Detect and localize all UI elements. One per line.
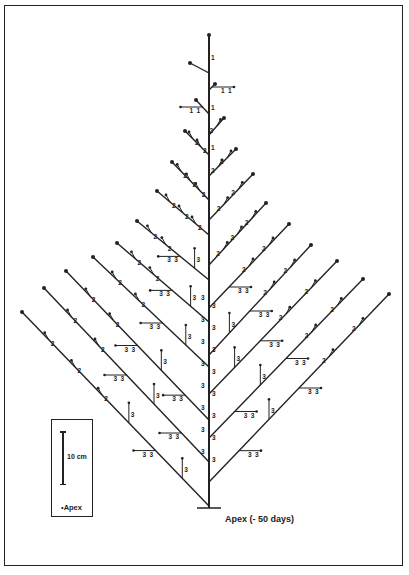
apex-dot-icon (230, 150, 233, 153)
apex-dot-icon (111, 271, 114, 274)
apex-dot-icon (64, 269, 68, 273)
right-main-branch (209, 245, 311, 355)
branch-order-label: 3 (231, 321, 235, 328)
branch-order-label: 2 (245, 219, 249, 226)
legend-apex-label: •Apex (61, 503, 82, 512)
branch-order-label: 1 (228, 87, 232, 94)
branch-order-label: 3 (245, 287, 249, 294)
branch-order-label: 3 (167, 256, 171, 263)
branch-order-label: 2 (203, 147, 207, 154)
apex-dot-icon (128, 402, 131, 405)
branch-order-label: 1 (211, 104, 215, 111)
legend-scale-label: 10 cm (67, 453, 87, 460)
branch-order-label: 3 (201, 382, 205, 389)
branch-order-label: 2 (242, 266, 246, 273)
apex-dot-icon (250, 286, 253, 289)
branch-order-label: 3 (266, 311, 270, 318)
branch-order-label: 3 (201, 316, 205, 323)
left-main-branch (117, 243, 209, 322)
branch-order-label: 2 (231, 189, 235, 196)
branch-order-label: 2 (211, 167, 215, 174)
branch-order-label: 3 (212, 434, 216, 441)
apex-dot-icon (273, 281, 276, 284)
apex-dot-icon (281, 340, 284, 343)
branch-order-label: 3 (179, 395, 183, 402)
branch-order-label: 2 (305, 332, 309, 339)
apex-dot-icon (288, 306, 291, 309)
apex-dot-icon (149, 289, 152, 292)
branch-order-label: 3 (193, 294, 197, 301)
branch-order-label: 3 (143, 451, 147, 458)
apex-dot-icon (191, 216, 194, 219)
branch-order-label: 1 (211, 54, 215, 61)
branch-order-label: 3 (176, 433, 180, 440)
apex-dot-icon (155, 189, 159, 193)
branch-order-label: 1 (211, 144, 215, 151)
apex-dot-icon (241, 181, 244, 184)
apex-dot-icon (139, 322, 142, 325)
right-main-branch (209, 174, 253, 220)
apex-dot-icon (307, 357, 310, 360)
branch-order-label: 3 (212, 390, 216, 397)
apex-dot-icon (160, 236, 163, 239)
branch-order-label: 2 (322, 357, 326, 364)
apex-dot-icon (196, 139, 199, 142)
apex-dot-icon (309, 243, 313, 247)
branch-order-label: 2 (92, 296, 96, 303)
branch-order-label: 2 (51, 340, 55, 347)
apex-dot-icon (185, 173, 188, 176)
apex-dot-icon (153, 383, 156, 386)
branch-order-label: 3 (201, 360, 205, 367)
apex-dot-icon (222, 116, 226, 120)
apex-dot-icon (272, 237, 275, 240)
left-main-branch (190, 63, 209, 73)
branch-order-label: 3 (238, 287, 242, 294)
apex-dot-icon (188, 61, 192, 65)
apex-dot-icon (320, 387, 323, 390)
branch-order-label: 2 (198, 224, 202, 231)
branch-order-label: 3 (125, 346, 129, 353)
branch-order-label: 3 (302, 359, 306, 366)
branch-order-label: 1 (190, 107, 194, 114)
apex-dot-icon (226, 241, 229, 244)
apex-dot-icon (259, 364, 262, 367)
apex-dot-icon (66, 309, 69, 312)
apex-dot-icon (226, 196, 229, 199)
branch-order-label: 2 (101, 346, 105, 353)
apex-dot-icon (108, 312, 111, 315)
scale-bar-icon (62, 431, 64, 485)
branch-order-label: 3 (251, 412, 255, 419)
apex-dot-icon (20, 310, 24, 314)
apex-dot-icon (42, 286, 46, 290)
apex-dot-icon (188, 131, 191, 134)
apex-dot-icon (148, 266, 151, 269)
apex-dot-icon (271, 310, 274, 313)
apex-dot-icon (94, 338, 97, 341)
apex-dot-icon (84, 287, 87, 290)
branch-order-label: 2 (217, 205, 221, 212)
branch-order-label: 2 (104, 395, 108, 402)
branch-order-label: 3 (156, 392, 160, 399)
left-main-branch (93, 257, 209, 367)
apex-dot-icon (179, 106, 182, 109)
apex-dot-icon (114, 344, 117, 347)
branch-order-label: 3 (244, 412, 248, 419)
branch-order-label: 3 (188, 333, 192, 340)
branch-order-label: 3 (184, 466, 188, 473)
base-apex-label: Apex (- 50 days) (225, 514, 294, 524)
apex-dot-icon (234, 147, 238, 151)
branch-order-label: 3 (259, 311, 263, 318)
branch-order-label: 2 (304, 288, 308, 295)
branch-order-label: 3 (121, 375, 125, 382)
apex-dot-icon (185, 324, 188, 327)
branch-order-label: 3 (201, 404, 205, 411)
branch-order-label: 3 (166, 290, 170, 297)
branch-order-label: 3 (201, 448, 205, 455)
apex-dot-icon (268, 398, 271, 401)
branch-order-label: 3 (132, 346, 136, 353)
apex-dot-icon (130, 250, 133, 253)
apex-dot-icon (170, 160, 174, 164)
branch-order-label: 2 (153, 233, 157, 240)
apex-dot-icon (254, 210, 257, 213)
apex-dot-icon (340, 297, 343, 300)
